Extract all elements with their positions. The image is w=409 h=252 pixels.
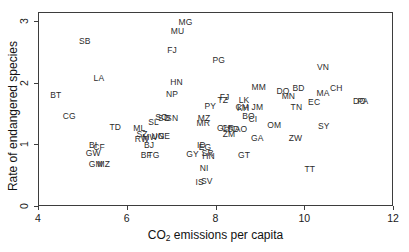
data-point-label: BT bbox=[50, 90, 61, 99]
y-axis-label: Rate of endangered species bbox=[6, 11, 20, 221]
data-point-label: TN bbox=[291, 103, 303, 112]
x-tick-label: 4 bbox=[35, 212, 41, 224]
data-point-label: TZ bbox=[217, 95, 228, 104]
data-point-label: TG bbox=[147, 151, 159, 160]
x-axis-label-main: CO bbox=[148, 228, 166, 242]
scatter-plot-figure: MGMUSBFJPGVNLAHNMMBDCHBTNPDOMAMNFJTZLKDO… bbox=[0, 0, 409, 252]
y-tick-label: 2 bbox=[18, 80, 30, 86]
data-point-label: CI bbox=[249, 114, 258, 123]
data-point-label: SY bbox=[318, 121, 330, 130]
data-point-label: LA bbox=[94, 74, 105, 83]
x-tick-mark bbox=[304, 206, 305, 210]
data-point-label: SN bbox=[166, 113, 178, 122]
data-point-label: PY bbox=[205, 101, 217, 110]
data-point-label: PG bbox=[212, 56, 224, 65]
data-point-label: GY bbox=[186, 150, 198, 159]
data-point-label: NP bbox=[166, 89, 178, 98]
data-point-label: MG bbox=[178, 17, 192, 26]
data-point-label: NE bbox=[158, 131, 170, 140]
y-tick-label-text: 0 bbox=[18, 203, 30, 209]
y-tick-label-text: 2 bbox=[18, 80, 30, 86]
data-point-label: NI bbox=[200, 164, 209, 173]
data-point-label: SV bbox=[201, 177, 213, 186]
data-point-label: TT bbox=[304, 164, 315, 173]
y-tick-mark bbox=[34, 206, 38, 207]
data-point-label: VN bbox=[317, 62, 329, 71]
y-tick-label: 0 bbox=[18, 203, 30, 209]
data-point-label: OM bbox=[267, 121, 281, 130]
data-point-label: BJ bbox=[144, 140, 154, 149]
data-point-label: TD bbox=[110, 122, 122, 131]
data-point-label: EC bbox=[308, 98, 320, 107]
data-point-label: GW bbox=[86, 148, 101, 157]
x-axis-label-rest: emissions per capita bbox=[171, 228, 284, 242]
data-point-label: AO bbox=[235, 125, 247, 134]
x-axis-label: CO2 emissions per capita bbox=[38, 228, 393, 242]
x-tick-mark bbox=[216, 206, 217, 210]
x-tick-label: 10 bbox=[298, 212, 310, 224]
data-point-label: ZM bbox=[223, 130, 235, 139]
data-point-label: MU bbox=[171, 27, 184, 36]
y-tick-label-text: 1 bbox=[18, 141, 30, 147]
x-tick-label: 6 bbox=[124, 212, 130, 224]
data-point-label: MM bbox=[251, 82, 265, 91]
data-point-label: CG bbox=[63, 112, 76, 121]
y-tick-mark bbox=[34, 21, 38, 22]
data-point-label: HN bbox=[170, 77, 182, 86]
y-tick-mark bbox=[34, 144, 38, 145]
x-tick-mark bbox=[38, 206, 39, 210]
data-point-label: FJ bbox=[167, 45, 177, 54]
data-point-label: ZW bbox=[289, 134, 302, 143]
y-tick-label-text: 3 bbox=[18, 18, 30, 24]
data-point-label: GA bbox=[251, 134, 263, 143]
data-point-label: SL bbox=[148, 118, 159, 127]
data-point-label: HN bbox=[202, 151, 214, 160]
x-tick-mark bbox=[127, 206, 128, 210]
data-point-label: GT bbox=[238, 151, 250, 160]
data-point-label: SB bbox=[79, 36, 91, 45]
data-point-label: MN bbox=[282, 91, 295, 100]
y-tick-label: 3 bbox=[18, 18, 30, 24]
data-point-label: PA bbox=[357, 97, 368, 106]
x-tick-label: 12 bbox=[387, 212, 399, 224]
data-point-label: MR bbox=[196, 119, 209, 128]
data-point-label: MZ bbox=[98, 159, 110, 168]
plot-area: MGMUSBFJPGVNLAHNMMBDCHBTNPDOMAMNFJTZLKDO… bbox=[38, 12, 393, 206]
x-tick-label: 8 bbox=[213, 212, 219, 224]
x-tick-mark bbox=[393, 206, 394, 210]
data-point-label: CH bbox=[330, 84, 342, 93]
y-tick-mark bbox=[34, 83, 38, 84]
x-axis-label-subscript: 2 bbox=[166, 233, 171, 243]
y-tick-label: 1 bbox=[18, 141, 30, 147]
